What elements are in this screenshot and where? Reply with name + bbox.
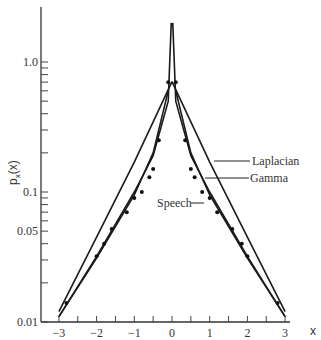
speech-data-point [240,242,244,246]
x-tick-label: 2 [244,326,250,340]
x-tick-label: 1 [207,326,213,340]
speech-data-point [125,210,129,214]
speech-data-point [189,167,193,171]
speech-data-point [200,190,204,194]
speech-data-point [132,196,136,200]
x-axis-label: x [310,324,316,338]
speech-data-point [215,210,219,214]
tick-labels: −3−2−101230.010.050.11.0 [17,55,288,340]
speech-data-point [151,167,155,171]
speech-data-point [140,190,144,194]
speech-data-point [183,138,187,142]
x-tick-label: −1 [128,326,141,340]
speech-data-point [102,242,106,246]
y-tick-label: 1.0 [23,55,38,69]
speech-data-point [245,254,249,258]
y-axis-label: px(x) [6,160,22,185]
y-tick-label: 0.01 [17,315,38,329]
x-tick-label: −2 [90,326,103,340]
y-tick-label: 0.1 [23,185,38,199]
speech-data-point [174,80,178,84]
speech-data-point [193,175,197,179]
x-tick-label: 0 [169,326,175,340]
speech-data-point [157,138,161,142]
svg-text:px(x): px(x) [6,160,22,185]
legend: Laplacian Gamma Speech [157,154,299,210]
speech-data-point [64,301,68,305]
y-tick-label: 0.05 [17,224,38,238]
speech-data-point [110,227,114,231]
legend-gamma: Gamma [250,171,289,185]
laplacian-curve [59,82,172,312]
data-points [64,80,279,305]
x-tick-label: 3 [282,326,288,340]
speech-data-point [166,80,170,84]
speech-data-point [147,175,151,179]
speech-data-point [276,301,280,305]
speech-data-point [208,196,212,200]
legend-laplacian: Laplacian [252,154,299,168]
speech-data-point [95,254,99,258]
chart: −3−2−101230.010.050.11.0 Laplacian Gamma… [0,0,321,340]
x-tick-label: −3 [53,326,66,340]
speech-data-point [230,227,234,231]
curves [59,23,285,317]
legend-speech: Speech [157,196,192,210]
